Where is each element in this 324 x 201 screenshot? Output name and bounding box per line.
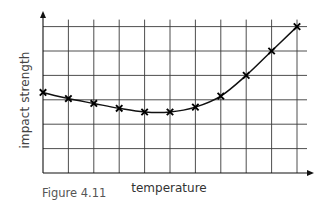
- grid-lines: [43, 20, 307, 173]
- x-axis-arrow-icon: [307, 170, 314, 176]
- x-axis-label: temperature: [131, 181, 206, 195]
- y-axis-label: impact strength: [18, 51, 32, 148]
- y-axis-arrow-icon: [40, 11, 46, 18]
- chart-canvas: [0, 0, 324, 201]
- figure-caption: Figure 4.11: [42, 186, 106, 200]
- axes: [40, 11, 314, 176]
